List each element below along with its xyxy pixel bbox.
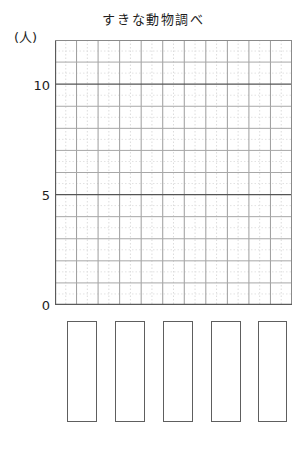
y-tick-5: 5	[30, 188, 50, 202]
category-label-box[interactable]	[115, 321, 145, 422]
page-title: すきな動物調べ	[0, 9, 307, 28]
y-tick-label: 0	[30, 298, 50, 313]
y-tick-label: 5	[30, 188, 50, 203]
category-label-box[interactable]	[258, 321, 287, 422]
y-tick-10: 10	[30, 78, 50, 92]
y-tick-label: 10	[30, 78, 50, 93]
chart-plot-area	[55, 40, 292, 305]
grid-lines	[55, 40, 292, 305]
category-label-box[interactable]	[163, 321, 193, 422]
worksheet-page: すきな動物調べ (人)	[0, 0, 307, 451]
category-label-box[interactable]	[211, 321, 241, 422]
category-label-box[interactable]	[67, 321, 97, 422]
y-axis-unit-label: (人)	[14, 27, 37, 46]
y-tick-0: 0	[30, 298, 50, 312]
